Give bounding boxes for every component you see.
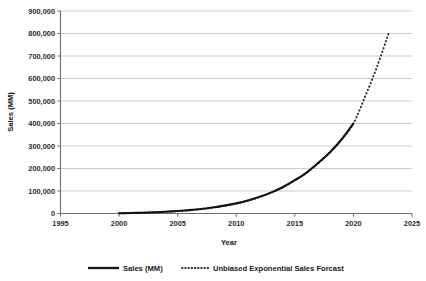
x-tick-label: 2000 [111,219,127,228]
y-tick-label: 600,000 [28,74,55,83]
x-tick-label: 1995 [52,219,68,228]
y-tick-label: 900,000 [28,7,55,16]
x-tick-label: 2005 [169,219,185,228]
x-tick-label: 2025 [404,219,420,228]
sales-forecast-chart: 0100,000200,000300,000400,000500,000600,… [0,0,426,281]
y-tick-label: 400,000 [28,119,55,128]
gridlines [61,11,413,191]
y-tick-label: 300,000 [28,142,55,151]
y-tick-label: 800,000 [28,29,55,38]
y-tick-label: 0 [51,209,55,218]
x-tick-label: 2010 [228,219,244,228]
x-axis-title: Year [221,238,237,247]
legend-label-forecast: Unbiased Exponential Sales Forcast [213,264,344,273]
y-tick-label: 500,000 [28,97,55,106]
chart-canvas: 0100,000200,000300,000400,000500,000600,… [0,0,426,281]
legend-label-sales: Sales (MM) [123,264,163,273]
chart-legend: Sales (MM) Unbiased Exponential Sales Fo… [88,264,344,273]
y-axis-title: Sales (MM) [6,92,15,132]
y-tick-label: 100,000 [28,187,55,196]
x-tick-label: 2020 [345,219,361,228]
x-axis-tick-labels: 1995200020052010201520202025 [52,219,420,228]
x-tick-label: 2015 [287,219,303,228]
y-tick-label: 700,000 [28,52,55,61]
y-tick-label: 200,000 [28,164,55,173]
y-axis-tick-labels: 0100,000200,000300,000400,000500,000600,… [28,7,55,219]
